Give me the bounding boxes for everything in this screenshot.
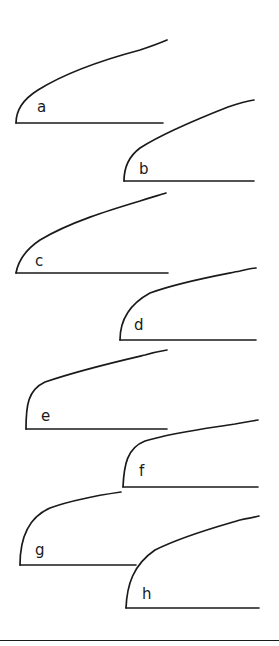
- panel-label-d: d: [134, 318, 144, 333]
- bottom-divider: [0, 640, 279, 641]
- panel-label-f: f: [139, 464, 144, 479]
- panel-label-g: g: [35, 543, 45, 558]
- panel-label-a: a: [37, 100, 46, 115]
- panel-label-b: b: [139, 162, 149, 177]
- panel-label-h: h: [142, 587, 152, 602]
- panel-label-c: c: [35, 254, 43, 269]
- panel-label-e: e: [41, 409, 50, 424]
